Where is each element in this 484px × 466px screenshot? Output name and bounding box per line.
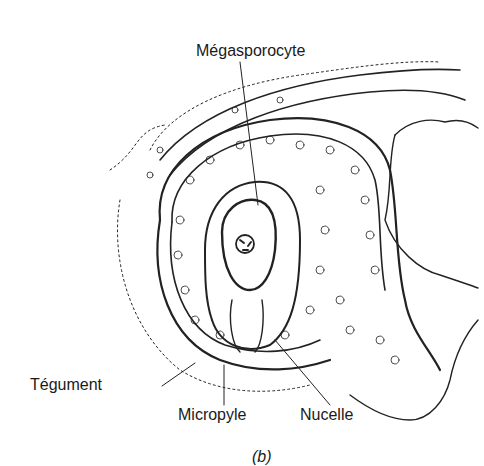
label-tegument: Tégument <box>30 376 102 394</box>
figure-caption: (b) <box>252 448 272 466</box>
label-megasporocyte: Mégasporocyte <box>196 42 305 60</box>
label-nucelle: Nucelle <box>300 406 353 424</box>
label-micropyle: Micropyle <box>178 406 246 424</box>
